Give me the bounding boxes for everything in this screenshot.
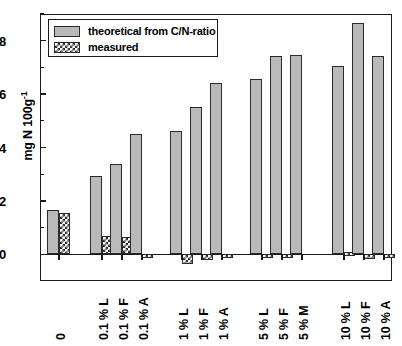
y-minor-tick-3: [40, 174, 44, 175]
x-tick-label-10: 10 % L: [339, 302, 353, 340]
x-tick-1: [101, 254, 103, 260]
x-tick-12: [383, 254, 385, 260]
bar-chart-figure: mg N 100g-1 02468 00.1 % L0.1 % F0.1 % A…: [0, 0, 402, 346]
x-tick-label-6: 1 % A: [217, 307, 231, 340]
bar-theoretical-12: [372, 56, 384, 254]
y-tick-4: [40, 147, 46, 149]
bar-theoretical-10: [332, 66, 344, 254]
x-tick-11: [363, 254, 365, 260]
y-tick-2: [40, 200, 46, 202]
bar-theoretical-2: [110, 164, 122, 255]
bar-measured-3: [142, 254, 153, 258]
x-tick-label-1: 0.1 % L: [97, 298, 111, 340]
bar-theoretical-11: [352, 23, 364, 254]
bar-measured-0: [59, 213, 70, 254]
y-tick-label-2: 2: [0, 193, 6, 208]
x-tick-0: [58, 254, 60, 260]
x-tick-label-3: 0.1 % A: [137, 297, 151, 340]
y-tick-label-8: 8: [0, 33, 6, 48]
x-tick-label-0: 0: [54, 333, 68, 340]
bar-measured-7: [262, 254, 273, 258]
bar-measured-8: [282, 254, 293, 258]
bar-theoretical-0: [47, 210, 59, 254]
bar-theoretical-9: [290, 55, 302, 254]
x-tick-6: [221, 254, 223, 260]
x-tick-10: [343, 254, 345, 260]
legend-item-measured: measured: [54, 40, 212, 54]
x-tick-2: [121, 254, 123, 260]
x-tick-label-9: 5 % M: [297, 306, 311, 340]
x-tick-7: [261, 254, 263, 260]
y-axis-label-text: mg N 100g: [21, 99, 35, 160]
legend-swatch-theoretical: [54, 26, 80, 37]
legend-item-theoretical: theoretical from C/N-ratio: [54, 24, 212, 38]
bar-theoretical-3: [130, 134, 142, 254]
y-minor-tick-7: [40, 67, 44, 68]
x-tick-label-8: 5 % F: [277, 308, 291, 340]
bar-theoretical-7: [250, 79, 262, 254]
x-tick-8: [281, 254, 283, 260]
x-tick-3: [141, 254, 143, 260]
bar-measured-5: [202, 254, 213, 260]
y-tick-label-4: 4: [0, 140, 6, 155]
legend-label-theoretical: theoretical from C/N-ratio: [88, 25, 215, 37]
y-minor-tick-9: [40, 13, 44, 14]
x-tick-label-11: 10 % F: [359, 302, 373, 340]
legend-swatch-measured: [54, 42, 80, 53]
y-tick-label-0: 0: [0, 247, 6, 262]
y-tick-8: [40, 40, 46, 42]
y-tick-6: [40, 93, 46, 95]
bar-measured-11: [364, 254, 375, 259]
y-axis-label: mg N 100g-1: [19, 61, 35, 191]
y-minor-tick-1: [40, 227, 44, 228]
y-tick-label-6: 6: [0, 87, 6, 102]
bar-measured-6: [222, 254, 233, 258]
bar-theoretical-8: [270, 56, 282, 254]
bar-theoretical-6: [210, 83, 222, 254]
y-axis-label-exponent: -1: [19, 92, 29, 100]
x-tick-label-5: 1 % F: [197, 308, 211, 340]
bar-theoretical-4: [170, 131, 182, 254]
x-tick-9: [301, 254, 303, 260]
bar-measured-12: [384, 254, 395, 258]
x-tick-5: [201, 254, 203, 260]
bar-theoretical-5: [190, 107, 202, 254]
x-tick-label-4: 1 % L: [177, 308, 191, 340]
x-tick-4: [181, 254, 183, 260]
chart-legend: theoretical from C/N-ratio measured: [48, 19, 218, 57]
y-minor-tick-5: [40, 120, 44, 121]
x-tick-label-12: 10 % A: [379, 301, 393, 340]
x-tick-label-2: 0.1 % F: [117, 298, 131, 340]
legend-label-measured: measured: [88, 41, 138, 53]
bar-measured-4: [182, 254, 193, 263]
x-tick-label-7: 5 % L: [257, 308, 271, 340]
bar-theoretical-1: [90, 176, 102, 255]
